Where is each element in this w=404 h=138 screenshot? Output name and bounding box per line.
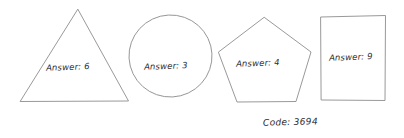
pentagon-answer-label: Answer: 4 — [236, 57, 280, 69]
rectangle-answer-label: Answer: 9 — [329, 51, 373, 63]
worksheet-canvas: Answer: 6 Answer: 3 Answer: 4 Answer: 9 … — [0, 0, 404, 138]
circle-answer-label: Answer: 3 — [144, 60, 188, 72]
triangle-outline — [21, 10, 129, 102]
code-text: Code: 3694 — [263, 116, 318, 128]
circle-outline — [127, 13, 214, 99]
triangle-answer-label: Answer: 6 — [46, 61, 90, 73]
